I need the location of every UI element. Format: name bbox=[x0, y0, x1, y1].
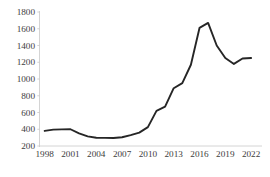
y-axis-tick-label: 1800 bbox=[17, 7, 36, 17]
x-axis-tick-label: 1998 bbox=[35, 149, 54, 159]
y-axis-tick-label: 600 bbox=[21, 108, 35, 118]
x-axis-tick-label: 2016 bbox=[190, 149, 209, 159]
y-axis-tick-label: 800 bbox=[21, 91, 35, 101]
x-axis-tick-label: 2001 bbox=[61, 149, 80, 159]
y-axis-tick-label: 1200 bbox=[17, 57, 36, 67]
y-axis-tick-label: 1600 bbox=[17, 24, 36, 34]
y-axis-tick-label: 1400 bbox=[17, 41, 36, 51]
y-axis-tick-label: 400 bbox=[21, 124, 35, 134]
x-axis-tick-label: 2010 bbox=[139, 149, 158, 159]
y-axis-tick-label: 200 bbox=[21, 141, 35, 151]
x-axis: 199820012004200720102013201620192022 bbox=[35, 146, 262, 159]
x-axis-tick-label: 2007 bbox=[113, 149, 132, 159]
x-axis-tick-label: 2004 bbox=[87, 149, 106, 159]
chart-canvas: 20040060080010001200140016001800 1998200… bbox=[0, 0, 270, 177]
x-axis-tick-label: 2019 bbox=[216, 149, 235, 159]
x-axis-tick-label: 2013 bbox=[165, 149, 184, 159]
line-chart: 20040060080010001200140016001800 1998200… bbox=[0, 0, 270, 177]
x-axis-tick-label: 2022 bbox=[242, 149, 261, 159]
chart-caption bbox=[0, 170, 270, 177]
y-axis-tick-label: 1000 bbox=[17, 74, 36, 84]
